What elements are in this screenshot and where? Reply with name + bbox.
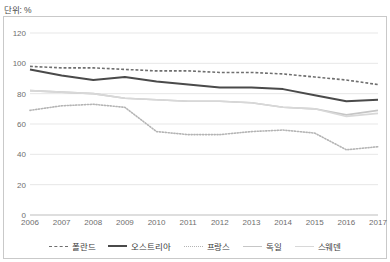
unit-label: 단위: % [4,3,31,15]
x-tick-2007: 2007 [53,218,71,227]
legend-item-3[interactable]: 독일 [243,240,282,252]
legend-item-2[interactable]: 프랑스 [184,240,230,252]
x-tick-2017: 2017 [369,218,387,227]
x-tick-2015: 2015 [306,218,324,227]
legend-label: 폴란드 [72,240,95,252]
x-tick-2011: 2011 [180,218,197,227]
legend-item-4[interactable]: 스웨덴 [295,240,341,252]
plot-area [30,33,378,215]
x-tick-2006: 2006 [21,218,39,227]
x-tick-2009: 2009 [116,218,134,227]
chart-root: 단위: % 020406080100120 200620072008200920… [0,0,390,262]
legend-swatch-icon [49,246,68,247]
legend-swatch-icon [243,246,262,247]
series-line-0 [30,66,378,84]
legend-swatch-icon [108,245,127,247]
legend-item-0[interactable]: 폴란드 [49,240,95,252]
legend-label: 프랑스 [207,240,230,252]
y-tick-20: 20 [2,180,26,189]
legend-label: 독일 [266,240,282,252]
x-tick-2008: 2008 [84,218,102,227]
y-tick-120: 120 [2,29,26,38]
x-tick-2014: 2014 [274,218,292,227]
series-line-1 [30,69,378,101]
line-chart-svg [30,33,378,215]
y-tick-100: 100 [2,59,26,68]
series-line-4 [30,91,378,117]
legend-swatch-icon [295,246,314,247]
legend-label: 오스트리아 [131,240,170,252]
x-tick-2016: 2016 [337,218,355,227]
y-tick-40: 40 [2,150,26,159]
legend-swatch-icon [184,246,203,247]
y-tick-80: 80 [2,89,26,98]
x-tick-2010: 2010 [148,218,166,227]
chart-legend: 폴란드오스트리아프랑스독일스웨덴 [0,240,390,252]
y-tick-60: 60 [2,120,26,129]
x-tick-2012: 2012 [211,218,229,227]
x-tick-2013: 2013 [243,218,261,227]
legend-label: 스웨덴 [318,240,341,252]
legend-item-1[interactable]: 오스트리아 [108,240,170,252]
